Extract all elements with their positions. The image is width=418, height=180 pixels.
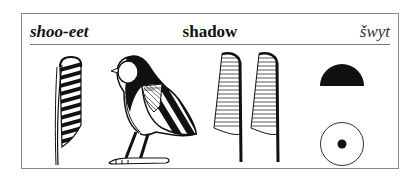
header-divider bbox=[30, 44, 390, 45]
card-header: shoo-eet shadow šwyt bbox=[30, 20, 390, 44]
feather-striped-icon bbox=[52, 55, 86, 167]
sun-disk-icon bbox=[318, 120, 366, 168]
feather-hatched-icon bbox=[210, 50, 248, 166]
meaning-label: shadow bbox=[30, 22, 390, 42]
bread-loaf-icon bbox=[318, 62, 366, 88]
feather-hatched-icon bbox=[247, 50, 285, 166]
transliteration-label: šwyt bbox=[360, 22, 390, 42]
quail-chick-icon bbox=[104, 52, 198, 168]
